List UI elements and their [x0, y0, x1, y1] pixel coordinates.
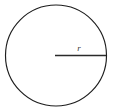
circle-radius-diagram: r [0, 0, 113, 112]
radius-label: r [77, 43, 81, 53]
figure-canvas: r [0, 0, 113, 112]
